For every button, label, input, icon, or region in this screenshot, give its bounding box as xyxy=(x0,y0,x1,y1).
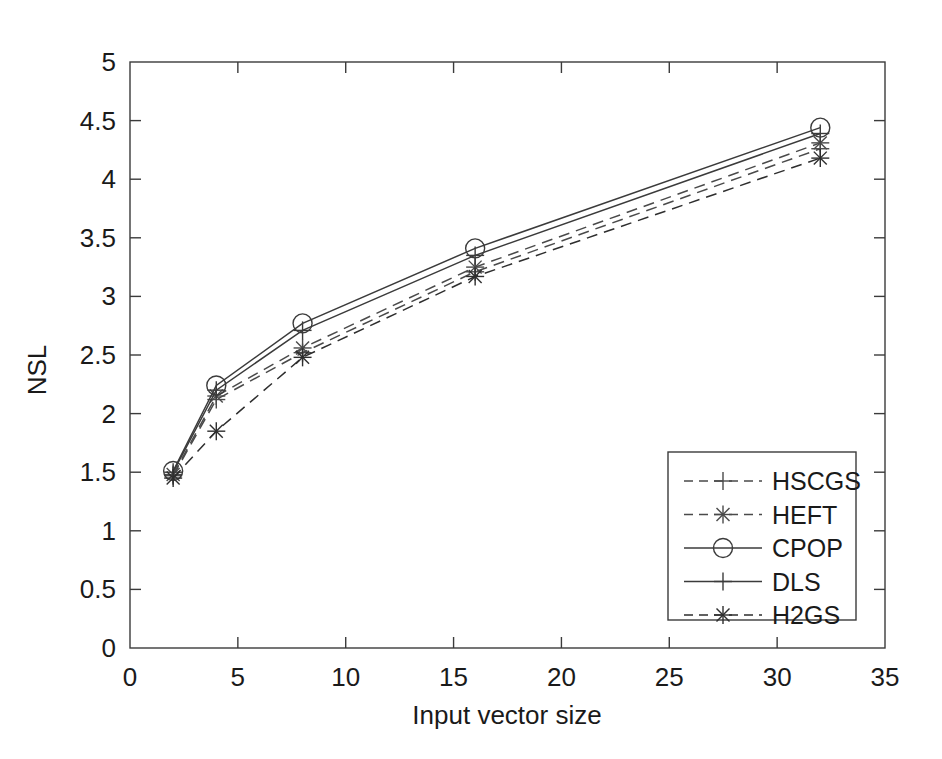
legend-label-dls: DLS xyxy=(772,568,821,596)
y-tick-label: 0.5 xyxy=(80,574,116,604)
y-tick-label: 0 xyxy=(102,633,116,663)
nsl-line-chart: 05101520253035 00.511.522.533.544.55 Inp… xyxy=(0,0,942,759)
y-tick-label: 3 xyxy=(102,281,116,311)
y-tick-label: 3.5 xyxy=(80,223,116,253)
x-tick-label: 25 xyxy=(655,662,684,692)
y-axis-label: NSL xyxy=(22,345,52,396)
legend-h2gs-asterisk-marker xyxy=(714,606,732,624)
legend-label-heft: HEFT xyxy=(772,501,837,529)
x-tick-label: 35 xyxy=(871,662,900,692)
y-tick-label: 2 xyxy=(102,399,116,429)
series-h2gs-asterisk-marker xyxy=(811,149,829,167)
y-tick-label: 4.5 xyxy=(80,106,116,136)
series-h2gs-asterisk-marker xyxy=(466,267,484,285)
x-tick-label: 20 xyxy=(547,662,576,692)
x-axis-label: Input vector size xyxy=(412,700,601,730)
legend-label-hscgs: HSCGS xyxy=(772,467,861,495)
series-h2gs-asterisk-marker xyxy=(294,348,312,366)
legend-label-h2gs: H2GS xyxy=(772,601,840,629)
x-tick-label: 0 xyxy=(123,662,137,692)
chart-legend: HSCGSHEFTCPOPDLSH2GS xyxy=(668,452,861,629)
x-tick-label: 5 xyxy=(231,662,245,692)
x-tick-label: 15 xyxy=(439,662,468,692)
series-h2gs-asterisk-marker xyxy=(164,469,182,487)
y-tick-label: 5 xyxy=(102,47,116,77)
x-tick-label: 30 xyxy=(763,662,792,692)
y-tick-label: 1 xyxy=(102,516,116,546)
x-tick-label: 10 xyxy=(331,662,360,692)
y-tick-label: 1.5 xyxy=(80,457,116,487)
y-tick-label: 2.5 xyxy=(80,340,116,370)
series-h2gs-asterisk-marker xyxy=(207,422,225,440)
chart-figure: 05101520253035 00.511.522.533.544.55 Inp… xyxy=(0,0,942,759)
legend-heft-asterisk-marker xyxy=(714,506,732,524)
legend-label-cpop: CPOP xyxy=(772,534,843,562)
y-tick-label: 4 xyxy=(102,164,116,194)
